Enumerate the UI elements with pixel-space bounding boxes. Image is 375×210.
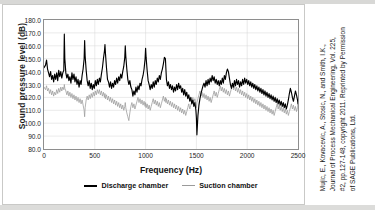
x-tick-label: 2000 <box>240 152 255 159</box>
legend-item-suction-chamber: Suction chamber <box>182 181 257 190</box>
legend-item-discharge-chamber: Discharge chamber <box>84 181 168 190</box>
y-tick-label: 170.0 <box>24 29 41 36</box>
plot-canvas <box>44 20 298 149</box>
x-tick-label: 0 <box>42 152 46 159</box>
y-tick-label: 80.0 <box>28 146 41 153</box>
x-tick-label: 500 <box>89 152 100 159</box>
plot-area: 80.090.0100.0110.0120.0130.0140.0150.016… <box>43 19 299 150</box>
y-tick-label: 160.0 <box>24 42 41 49</box>
citation-block: Mujic, E., Kovacevic, A., Stosic, N., an… <box>305 4 373 205</box>
y-tick-label: 180.0 <box>24 17 41 24</box>
y-tick-label: 100.0 <box>24 120 41 127</box>
legend-label-suction-chamber: Suction chamber <box>199 181 257 190</box>
y-tick-label: 150.0 <box>24 55 41 62</box>
citation-line: Mujic, E., Kovacevic, A., Stosic, N., an… <box>318 0 328 191</box>
legend-swatch-suction-chamber <box>182 185 195 186</box>
legend-swatch-discharge-chamber <box>84 185 97 187</box>
x-tick-label: 1000 <box>138 152 153 159</box>
chart-figure-panel: Sound pressure level (dB) 80.090.0100.01… <box>2 4 305 205</box>
citation-line: #2, pp.127-148, copyright 2011. Reprinte… <box>338 0 348 191</box>
y-tick-label: 90.0 <box>28 133 41 140</box>
x-axis-title: Frequency (Hz) <box>43 165 299 175</box>
y-tick-label: 130.0 <box>24 81 41 88</box>
citation-text: Mujic, E., Kovacevic, A., Stosic, N., an… <box>318 0 358 191</box>
y-tick-label: 120.0 <box>24 94 41 101</box>
x-tick-label: 2500 <box>291 152 306 159</box>
citation-line: of SAGE Publications, Ltd. <box>348 0 358 191</box>
x-tick-label: 1500 <box>189 152 204 159</box>
scan-edge-bottom <box>0 205 375 210</box>
y-tick-label: 140.0 <box>24 68 41 75</box>
legend-label-discharge-chamber: Discharge chamber <box>101 181 168 190</box>
chart-legend: Discharge chamber Suction chamber <box>43 181 299 190</box>
figure-root: Sound pressure level (dB) 80.090.0100.01… <box>0 0 375 210</box>
citation-line: Journal of Process Mechanical Engineerin… <box>328 0 338 191</box>
y-tick-label: 110.0 <box>25 107 41 114</box>
